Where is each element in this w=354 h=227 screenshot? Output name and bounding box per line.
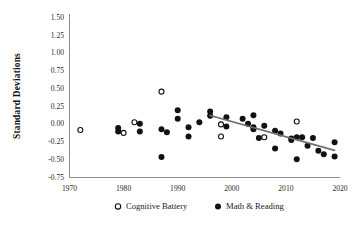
y-axis-tick-labels: 1.501.251.000.750.500.250.00-0.25-0.50-0… [48, 13, 64, 182]
data-point-math-reading [240, 116, 246, 122]
y-tick-label: 0.25 [51, 102, 64, 111]
legend-label: Cognitive Battery [126, 201, 188, 211]
x-axis-tick-labels: 197019801990200020102020 [62, 184, 348, 193]
data-point-math-reading [175, 107, 181, 113]
data-point-math-reading [332, 153, 338, 159]
data-point-math-reading [250, 112, 256, 118]
data-point-math-reading [137, 121, 143, 127]
data-point-math-reading [261, 123, 267, 129]
y-tick-label: -0.25 [48, 137, 64, 146]
data-point-math-reading [158, 154, 164, 160]
y-axis-title: Standard Deviations [12, 53, 22, 139]
x-tick-label: 2010 [278, 184, 293, 193]
chart-container: 1.501.251.000.750.500.250.00-0.25-0.50-0… [0, 0, 354, 227]
data-point-math-reading [223, 124, 229, 130]
data-point-math-reading [299, 134, 305, 140]
data-point-math-reading [256, 135, 262, 141]
data-point-cognitive-battery [132, 120, 137, 125]
data-point-math-reading [115, 128, 121, 134]
data-point-cognitive-battery [121, 130, 126, 135]
x-tick-label: 1970 [62, 184, 77, 193]
data-point-math-reading [137, 128, 143, 134]
data-point-math-reading [186, 124, 192, 130]
legend-marker-cognitive-battery [115, 204, 120, 209]
y-tick-label: -0.50 [48, 155, 64, 164]
data-point-cognitive-battery [218, 122, 223, 127]
data-point-math-reading [186, 133, 192, 139]
data-points-layer [78, 89, 338, 162]
y-tick-label: 0.75 [51, 66, 64, 75]
trend-line [210, 115, 334, 150]
y-tick-label: 1.25 [51, 31, 64, 40]
data-point-math-reading [321, 151, 327, 157]
data-point-math-reading [294, 156, 300, 162]
data-point-math-reading [196, 119, 202, 125]
y-tick-label: 1.00 [51, 48, 64, 57]
y-tick-label: -0.75 [48, 173, 64, 182]
x-tick-label: 2020 [332, 184, 347, 193]
data-point-cognitive-battery [159, 89, 164, 94]
y-tick-label: 0.00 [51, 119, 64, 128]
axis-lines [70, 14, 341, 178]
data-point-math-reading [175, 116, 181, 122]
y-tick-label: 1.50 [51, 13, 64, 22]
legend-marker-math-reading [215, 203, 221, 209]
data-point-math-reading [310, 135, 316, 141]
x-tick-label: 2000 [224, 184, 239, 193]
data-point-cognitive-battery [78, 128, 83, 133]
data-point-math-reading [315, 148, 321, 154]
data-point-cognitive-battery [218, 134, 223, 139]
x-tick-label: 1990 [170, 184, 185, 193]
scatter-plot: 1.501.251.000.750.500.250.00-0.25-0.50-0… [0, 0, 354, 227]
y-tick-label: 0.50 [51, 84, 64, 93]
data-point-math-reading [272, 146, 278, 152]
chart-legend: Cognitive BatteryMath & Reading [115, 201, 284, 211]
data-point-cognitive-battery [262, 135, 267, 140]
data-point-math-reading [332, 139, 338, 145]
data-point-math-reading [158, 126, 164, 132]
x-tick-label: 1980 [116, 184, 131, 193]
trendline-layer [210, 115, 334, 150]
legend-label: Math & Reading [226, 201, 284, 211]
data-point-cognitive-battery [294, 119, 299, 124]
data-point-math-reading [164, 129, 170, 135]
